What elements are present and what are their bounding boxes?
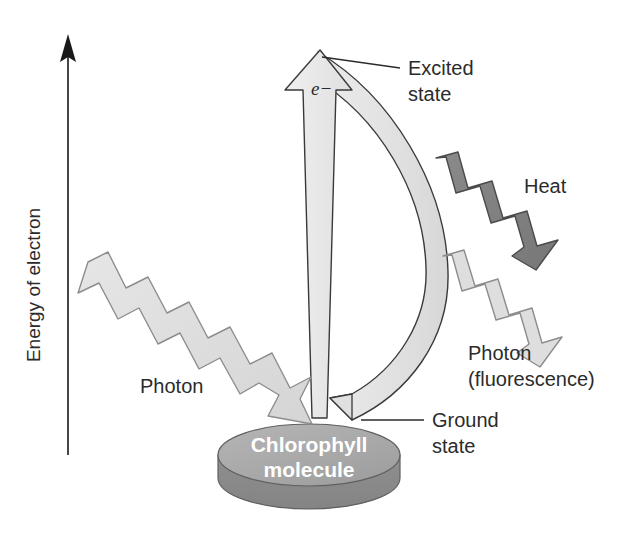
molecule-name-line2: molecule bbox=[263, 458, 354, 481]
axis-label: Energy of electron bbox=[23, 208, 44, 362]
photon-out-label-line2: (fluorescence) bbox=[468, 368, 595, 390]
photon-in-zigzag bbox=[78, 252, 312, 424]
energy-axis: Energy of electron bbox=[23, 34, 76, 455]
energy-diagram: Energy of electron e− Chlorophyll molecu… bbox=[0, 0, 628, 559]
electron-label: e− bbox=[311, 78, 332, 99]
excited-state-label-line1: Excited bbox=[408, 57, 474, 79]
chlorophyll-molecule: Chlorophyll molecule bbox=[218, 424, 400, 509]
ground-state-label-line2: state bbox=[432, 435, 475, 457]
photon-out-label-line1: Photon bbox=[468, 342, 531, 364]
up-arrow-excitation: e− bbox=[285, 50, 352, 418]
photon-in-label: Photon bbox=[140, 375, 203, 397]
excited-state-label-line2: state bbox=[408, 83, 451, 105]
relaxation-arrowhead bbox=[330, 394, 352, 420]
molecule-name-line1: Chlorophyll bbox=[251, 433, 368, 456]
diagram-canvas: Energy of electron e− Chlorophyll molecu… bbox=[0, 0, 628, 559]
excitation-arrow-body bbox=[285, 50, 352, 418]
ground-state-label-line1: Ground bbox=[432, 409, 499, 431]
heat-label: Heat bbox=[524, 175, 567, 197]
zigzag-arrow-photon-absorbed bbox=[78, 252, 312, 424]
